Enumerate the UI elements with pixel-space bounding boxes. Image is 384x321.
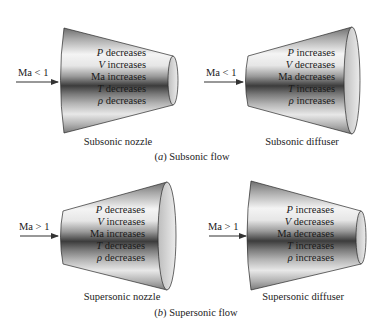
svg-text:Ma decreases: Ma decreases: [277, 228, 334, 239]
panel-caption: Supersonic diffuser: [262, 291, 344, 302]
svg-text:T increases: T increases: [287, 240, 334, 251]
svg-text:P increases: P increases: [286, 47, 335, 58]
svg-text:V increases: V increases: [98, 59, 146, 70]
section-label-a: (a) Subsonic flow: [154, 151, 230, 163]
svg-text:ρ increases: ρ increases: [288, 95, 335, 106]
panel-caption: Subsonic nozzle: [84, 136, 153, 147]
panel-supersonic-diffuser: Ma > 1 P increases V decreases Ma decrea…: [208, 181, 366, 302]
panel-subsonic-nozzle: Ma < 1 P decreases V increases Ma increa…: [16, 28, 178, 147]
inlet-mach-label: Ma < 1: [206, 67, 236, 78]
section-label-b: (b) Supersonic flow: [154, 307, 238, 319]
subsonic-nozzle-outlet-face: [168, 56, 178, 105]
svg-text:ρ increases: ρ increases: [287, 252, 334, 263]
inlet-mach-label: Ma < 1: [18, 67, 48, 78]
subsonic-diffuser-outlet-face: [344, 27, 360, 134]
svg-text:ρ decreases: ρ decreases: [97, 95, 146, 106]
svg-text:P increases: P increases: [285, 204, 334, 215]
svg-text:V increases: V increases: [97, 216, 145, 227]
svg-text:ρ decreases: ρ decreases: [96, 252, 145, 263]
inlet-mach-label: Ma > 1: [19, 221, 49, 232]
supersonic-nozzle-outlet-face: [158, 182, 176, 290]
svg-text:P decreases: P decreases: [96, 47, 146, 58]
svg-text:V decreases: V decreases: [285, 216, 334, 227]
svg-text:Ma increases: Ma increases: [90, 228, 145, 239]
svg-text:Ma decreases: Ma decreases: [278, 71, 335, 82]
property-list: P decreases V increases Ma increases T d…: [90, 204, 145, 263]
svg-text:T increases: T increases: [288, 83, 335, 94]
panel-caption: Supersonic nozzle: [84, 291, 161, 302]
inlet-mach-label: Ma > 1: [208, 221, 238, 232]
svg-text:P decreases: P decreases: [95, 204, 145, 215]
compressible-flow-diagram: Ma < 1 P decreases V increases Ma increa…: [0, 0, 384, 321]
svg-text:Ma increases: Ma increases: [91, 71, 146, 82]
svg-text:T decreases: T decreases: [97, 83, 146, 94]
panel-caption: Subsonic diffuser: [265, 136, 339, 147]
svg-text:V decreases: V decreases: [286, 59, 335, 70]
property-list: P decreases V increases Ma increases T d…: [91, 47, 146, 106]
svg-text:T decreases: T decreases: [96, 240, 145, 251]
panel-supersonic-nozzle: Ma > 1 P decreases V increases Ma increa…: [19, 182, 176, 302]
panel-subsonic-diffuser: Ma < 1 P increases V decreases Ma decrea…: [204, 27, 360, 147]
supersonic-diffuser-outlet-face: [356, 211, 366, 264]
